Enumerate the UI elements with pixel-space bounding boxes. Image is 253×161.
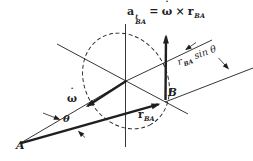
equation-r-subscript: BA [194,12,205,20]
offset-leader-lower-arrow [219,58,229,68]
point-b-label: B [168,87,177,98]
accel-subscript: BA [135,20,146,26]
point-a-label: A [16,140,25,151]
omega-dot-mark: ˙ [164,0,170,11]
omega-dot-vector-arrow [88,81,127,106]
omega-dot-glyph: ˙ω [67,93,77,104]
omega-label-dot-mark: ˙ [69,87,74,98]
equation-label: atBA=˙ω×rBA [127,6,205,26]
equals-sign: = [149,5,158,18]
omega-dot-label: ˙ω [67,93,77,104]
r-ba-subscript: BA [144,115,155,123]
theta-angle-label: θ [63,114,70,124]
r-ba-label: rBA [138,109,155,122]
accel-scripts: tBA [135,15,146,26]
vector-diagram: atBA=˙ω×rBA ˙ω θ A B rBA rBA sin θ [0,0,253,161]
cross-product-symbol: × [175,5,184,18]
theta-leader-upper-arrow [43,113,59,119]
tangential-accel-vector-arrow [166,37,167,101]
equation-omega: ˙ω [162,6,173,17]
r-ba-symbol: r [138,108,144,120]
equation-r-symbol: r [188,5,194,18]
offset-line-through-b [165,68,253,102]
accel-symbol: a [127,5,134,18]
theta-leader-lower-arrow [79,132,85,138]
